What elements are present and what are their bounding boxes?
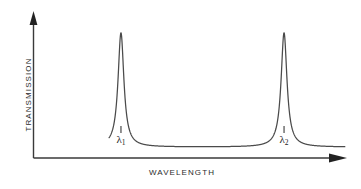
transmission-curve: [109, 33, 345, 147]
x-axis-label: WAVELENGTH: [122, 168, 242, 177]
peak-1-subscript: 1: [122, 138, 126, 147]
peak-1-label: λ1: [107, 133, 135, 145]
peak-2-label: λ2: [270, 133, 298, 145]
x-axis-arrowhead-icon: [329, 153, 347, 162]
y-axis-arrowhead-icon: [30, 11, 38, 25]
plot-canvas: [0, 0, 361, 189]
peak-2-subscript: 2: [285, 138, 289, 147]
y-axis-label: TRANSMISSION: [24, 45, 33, 145]
peak-1-symbol: λ: [116, 133, 121, 145]
transmission-spectrum-figure: TRANSMISSION WAVELENGTH λ1 λ2: [0, 0, 361, 189]
